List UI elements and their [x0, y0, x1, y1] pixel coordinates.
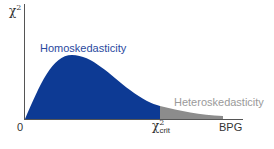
heteroskedasticity-label: Heteroskedasticity [174, 96, 264, 108]
origin-label: 0 [17, 121, 23, 133]
x-axis-end-label: BPG [219, 121, 242, 133]
critical-value-label: χ2crit [152, 118, 170, 135]
homoskedasticity-region [25, 55, 160, 119]
homoskedasticity-label: Homoskedasticity [40, 42, 126, 54]
y-axis-label: χ2 [9, 3, 21, 18]
